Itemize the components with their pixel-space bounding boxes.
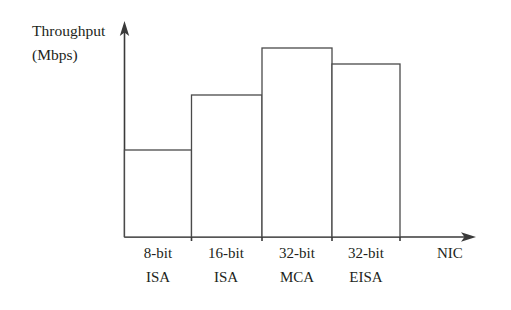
bar-16-bit-isa [192,95,263,237]
x-axis-label: NIC [437,245,463,261]
x-tick-label-bar4-line1: 32-bit [348,245,385,261]
chart-canvas: Throughput (Mbps) 8-bit 16-bit 32-bit 32… [0,0,511,310]
y-axis-label-line2: (Mbps) [32,46,78,64]
x-tick-label-bar4-line2: EISA [349,269,383,285]
x-tick-label-bar3-line1: 32-bit [279,245,316,261]
bar-8-bit-isa [125,150,192,237]
y-axis-label-line1: Throughput [32,22,106,39]
bar-32-bit-mca [262,48,332,237]
bar-32-bit-eisa [332,64,400,237]
x-tick-label-bar1-line2: ISA [146,269,170,285]
bar-chart-figure: Throughput (Mbps) 8-bit 16-bit 32-bit 32… [0,0,511,310]
x-tick-label-bar1-line1: 8-bit [144,245,173,261]
x-tick-label-bar3-line2: MCA [280,269,314,285]
x-tick-label-bar2-line2: ISA [214,269,238,285]
x-tick-label-bar2-line1: 16-bit [208,245,245,261]
